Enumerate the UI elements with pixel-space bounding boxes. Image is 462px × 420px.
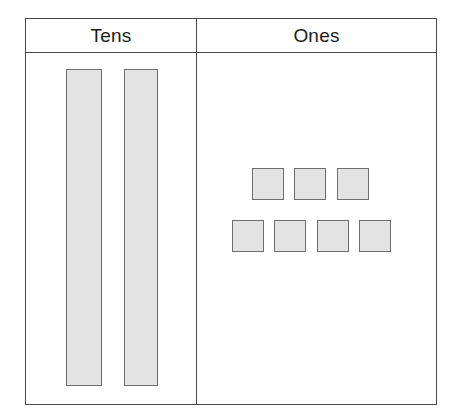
tens-column-header-cell: Tens <box>26 19 197 52</box>
one-unit-block[interactable] <box>274 220 306 252</box>
one-unit-block[interactable] <box>232 220 264 252</box>
one-unit-block[interactable] <box>359 220 391 252</box>
one-unit-block[interactable] <box>294 168 326 200</box>
ones-column-header-label: Ones <box>197 19 436 52</box>
ten-rod-block[interactable] <box>66 69 102 386</box>
one-unit-block[interactable] <box>317 220 349 252</box>
one-unit-block[interactable] <box>337 168 369 200</box>
chart-body-row <box>26 53 436 404</box>
ones-column-cell <box>197 53 436 404</box>
tens-column-header-label: Tens <box>26 19 196 52</box>
ones-units-group <box>197 53 436 404</box>
ones-column-header-cell: Ones <box>197 19 436 52</box>
place-value-chart: Tens Ones <box>25 18 437 405</box>
one-unit-block[interactable] <box>252 168 284 200</box>
tens-column-cell <box>26 53 197 404</box>
ten-rod-block[interactable] <box>124 69 158 386</box>
chart-header-row: Tens Ones <box>26 19 436 53</box>
tens-rods-group <box>26 53 196 404</box>
